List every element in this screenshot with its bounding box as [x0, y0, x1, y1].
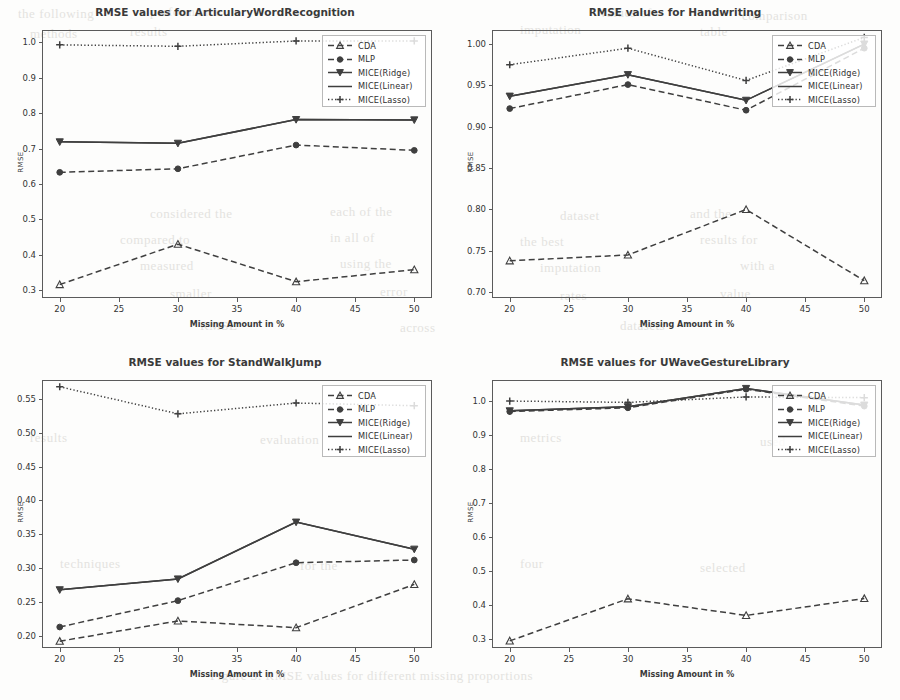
legend-key-none-icon: [327, 81, 353, 92]
series-marker-miceridge: [411, 546, 418, 553]
series-marker-mlp: [57, 624, 63, 630]
legend-key-triangle-down-icon: [327, 67, 353, 78]
scanned-figure-page: the followingperformancevalues ofcompari…: [0, 0, 900, 700]
series-marker-mlp: [293, 142, 299, 148]
legend-label: MLP: [808, 404, 825, 414]
series-marker-mlp: [625, 82, 631, 88]
series-marker-mlp: [411, 147, 417, 153]
chart-legend: CDAMLPMICE(Ridge)MICE(Linear)MICE(Lasso): [322, 385, 426, 457]
legend-label: MICE(Linear): [808, 81, 863, 91]
legend-item-cda[interactable]: CDA: [327, 389, 420, 403]
chart-legend: CDAMLPMICE(Ridge)MICE(Linear)MICE(Lasso): [772, 385, 876, 457]
legend-item-miceridge[interactable]: MICE(Ridge): [327, 416, 420, 430]
legend-label: MICE(Linear): [808, 431, 863, 441]
series-marker-cda: [742, 206, 749, 213]
series-marker-micelasso: [742, 393, 749, 400]
legend-label: CDA: [358, 391, 376, 401]
series-line-cda: [60, 244, 415, 284]
legend-label: CDA: [808, 391, 826, 401]
legend-key-circle-icon: [327, 404, 353, 415]
chart-panel-4: RMSE values for UWaveGestureLibrary0.30.…: [450, 350, 900, 700]
legend-item-micelinear[interactable]: MICE(Linear): [327, 430, 420, 444]
legend-label: MLP: [808, 54, 825, 64]
legend-item-micelasso[interactable]: MICE(Lasso): [777, 443, 870, 457]
legend-label: MICE(Linear): [358, 431, 413, 441]
chart-legend: CDAMLPMICE(Ridge)MICE(Linear)MICE(Lasso): [772, 35, 876, 107]
series-marker-cda: [411, 581, 418, 588]
legend-item-micelinear[interactable]: MICE(Linear): [777, 430, 870, 444]
legend-key-triangle-down-icon: [777, 67, 803, 78]
legend-label: MICE(Linear): [358, 81, 413, 91]
series-marker-micelasso: [292, 37, 299, 44]
legend-label: MICE(Lasso): [808, 445, 860, 455]
chart-legend: CDAMLPMICE(Ridge)MICE(Linear)MICE(Lasso): [322, 35, 426, 107]
legend-key-triangle-up-icon: [777, 390, 803, 401]
legend-key-plus-icon: [777, 444, 803, 455]
legend-label: MICE(Ridge): [358, 68, 410, 78]
legend-key-circle-icon: [777, 404, 803, 415]
legend-item-mlp[interactable]: MLP: [327, 53, 420, 67]
legend-label: MICE(Lasso): [808, 95, 860, 105]
chart-panel-2: RMSE values for Handwriting0.700.750.800…: [450, 0, 900, 350]
series-marker-micelasso: [742, 77, 749, 84]
chart-grid: RMSE values for ArticularyWordRecognitio…: [0, 0, 900, 700]
series-marker-mlp: [507, 106, 513, 112]
legend-key-triangle-up-icon: [327, 390, 353, 401]
legend-item-mlp[interactable]: MLP: [777, 403, 870, 417]
legend-item-micelinear[interactable]: MICE(Linear): [327, 80, 420, 94]
legend-item-mlp[interactable]: MLP: [777, 53, 870, 67]
legend-label: MICE(Ridge): [358, 418, 410, 428]
legend-item-miceridge[interactable]: MICE(Ridge): [327, 66, 420, 80]
legend-label: MICE(Ridge): [808, 418, 860, 428]
legend-key-none-icon: [777, 431, 803, 442]
series-marker-mlp: [411, 557, 417, 563]
series-line-micelinear: [60, 120, 415, 144]
legend-item-cda[interactable]: CDA: [777, 39, 870, 53]
series-line-cda: [510, 598, 865, 640]
series-line-micelinear: [60, 522, 415, 590]
legend-label: MICE(Lasso): [358, 95, 410, 105]
legend-label: MICE(Lasso): [358, 445, 410, 455]
legend-key-plus-icon: [777, 94, 803, 105]
series-line-mlp: [60, 145, 415, 172]
legend-item-cda[interactable]: CDA: [777, 389, 870, 403]
legend-item-miceridge[interactable]: MICE(Ridge): [777, 416, 870, 430]
series-marker-mlp: [175, 166, 181, 172]
legend-key-none-icon: [327, 431, 353, 442]
legend-key-plus-icon: [327, 94, 353, 105]
series-line-cda: [60, 584, 415, 641]
legend-item-micelasso[interactable]: MICE(Lasso): [327, 93, 420, 107]
series-marker-mlp: [293, 560, 299, 566]
chart-panel-1: RMSE values for ArticularyWordRecognitio…: [0, 0, 450, 350]
series-marker-micelasso: [292, 399, 299, 406]
series-line-mlp: [60, 560, 415, 627]
legend-key-circle-icon: [777, 54, 803, 65]
legend-key-circle-icon: [327, 54, 353, 65]
series-marker-micelasso: [174, 43, 181, 50]
legend-key-triangle-down-icon: [327, 417, 353, 428]
legend-item-cda[interactable]: CDA: [327, 39, 420, 53]
series-marker-micelasso: [506, 61, 513, 68]
series-marker-mlp: [175, 598, 181, 604]
legend-label: MLP: [358, 54, 375, 64]
series-marker-micelasso: [506, 397, 513, 404]
legend-item-micelinear[interactable]: MICE(Linear): [777, 80, 870, 94]
legend-key-triangle-up-icon: [777, 40, 803, 51]
legend-label: MICE(Ridge): [808, 68, 860, 78]
series-marker-mlp: [57, 169, 63, 175]
legend-label: CDA: [358, 41, 376, 51]
legend-item-miceridge[interactable]: MICE(Ridge): [777, 66, 870, 80]
legend-item-micelasso[interactable]: MICE(Lasso): [327, 443, 420, 457]
series-marker-micelasso: [56, 383, 63, 390]
legend-label: MLP: [358, 404, 375, 414]
legend-key-triangle-up-icon: [327, 40, 353, 51]
series-marker-mlp: [743, 107, 749, 113]
legend-label: CDA: [808, 41, 826, 51]
series-marker-micelasso: [56, 41, 63, 48]
legend-key-triangle-down-icon: [777, 417, 803, 428]
legend-item-mlp[interactable]: MLP: [327, 403, 420, 417]
legend-key-none-icon: [777, 81, 803, 92]
legend-item-micelasso[interactable]: MICE(Lasso): [777, 93, 870, 107]
series-line-cda: [510, 209, 865, 280]
series-marker-micelasso: [624, 45, 631, 52]
